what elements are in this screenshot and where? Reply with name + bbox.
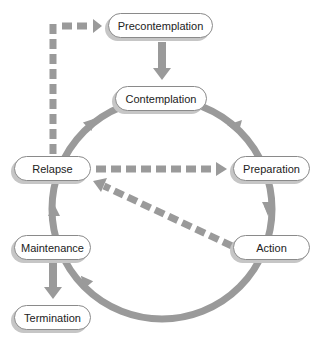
stage-label: Maintenance <box>21 242 84 254</box>
arrow-maintenance-to-termination <box>44 263 62 299</box>
stage-label: Contemplation <box>126 93 197 105</box>
stage-label: Relapse <box>32 163 72 175</box>
cycle-arrowheads <box>48 114 274 289</box>
stage-maintenance: Maintenance <box>14 235 91 260</box>
stage-label: Precontemplation <box>118 20 204 32</box>
arrow-precontemplation-to-contemplation <box>153 42 171 80</box>
stage-precontemplation: Precontemplation <box>108 13 213 38</box>
stage-relapse: Relapse <box>14 156 91 181</box>
stage-label: Preparation <box>243 163 300 175</box>
stage-contemplation: Contemplation <box>115 86 207 111</box>
stage-label: Termination <box>24 312 81 324</box>
stage-termination: Termination <box>14 305 91 330</box>
arrow-action-to-relapse <box>93 178 232 246</box>
stage-label: Action <box>256 242 287 254</box>
arrow-relapse-to-preparation <box>96 162 227 176</box>
stages-of-change-diagram: Precontemplation Contemplation Preparati… <box>0 0 320 345</box>
stage-preparation: Preparation <box>233 156 310 181</box>
stage-action: Action <box>233 235 310 260</box>
